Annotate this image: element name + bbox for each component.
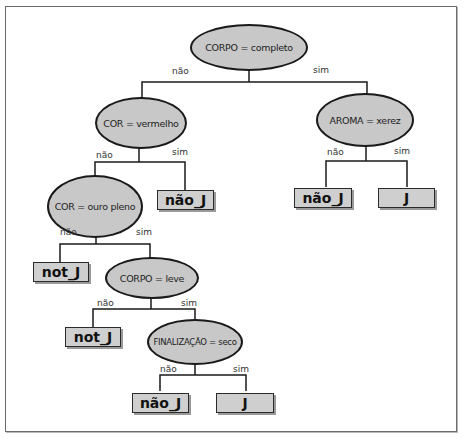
edge-label-vermelho-no: não <box>96 150 113 160</box>
edge-label-root-yes: sim <box>313 65 329 75</box>
node-label: AROMA = xerez <box>329 115 400 126</box>
node-finalizacao-seco: FINALIZAÇÃO = seco <box>147 319 243 365</box>
node-label: COR = ouro pleno <box>55 201 136 212</box>
node-corpo-leve: CORPO = leve <box>105 257 199 299</box>
leaf-label: não_J <box>140 395 181 411</box>
leaf-leve-nao: not_J <box>65 327 121 347</box>
edge-label-finalizacao-yes: sim <box>233 364 249 374</box>
node-label: CORPO = leve <box>120 273 184 284</box>
edge-label-leve-yes: sim <box>181 298 197 308</box>
leaf-label: J <box>242 395 247 411</box>
leaf-label: não_J <box>302 190 343 206</box>
node-corpo-completo: CORPO = completo <box>190 24 308 71</box>
edge-label-aroma-no: não <box>327 147 344 157</box>
node-label: CORPO = completo <box>205 42 292 53</box>
node-cor-vermelho: COR = vermelho <box>95 97 187 149</box>
node-label: COR = vermelho <box>103 118 178 129</box>
edge-label-ouro-yes: sim <box>136 227 152 237</box>
node-label: FINALIZAÇÃO = seco <box>153 337 236 347</box>
leaf-aroma-nao: não_J <box>294 188 352 208</box>
leaf-label: J <box>404 190 409 206</box>
edge-label-root-no: não <box>172 66 189 76</box>
leaf-finalizacao-nao: não_J <box>132 393 189 413</box>
leaf-finalizacao-sim: J <box>216 393 274 413</box>
leaf-aroma-sim: J <box>378 188 435 208</box>
edge-label-finalizacao-no: não <box>160 364 177 374</box>
leaf-label: não_J <box>165 192 206 208</box>
leaf-vermelho-sim: não_J <box>157 190 214 210</box>
edge-label-ouro-no: não <box>60 227 77 237</box>
leaf-label: not_J <box>74 329 113 345</box>
edge-label-leve-no: não <box>97 298 114 308</box>
node-aroma-xerez: AROMA = xerez <box>316 93 414 147</box>
leaf-label: not_J <box>42 264 81 280</box>
edge-label-vermelho-yes: sim <box>172 147 188 157</box>
leaf-ouro-nao: not_J <box>33 262 89 282</box>
edge-label-aroma-yes: sim <box>394 146 410 156</box>
